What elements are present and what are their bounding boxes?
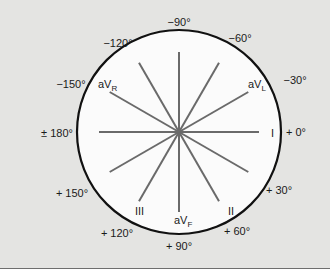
angle-label: −150° bbox=[56, 78, 85, 90]
angle-label: + 30° bbox=[266, 184, 292, 196]
lead-label: II bbox=[228, 205, 234, 217]
angle-label: + 90° bbox=[166, 240, 192, 252]
angle-label: + 0° bbox=[286, 126, 306, 138]
angle-label: −120° bbox=[103, 37, 132, 49]
angle-label: + 60° bbox=[224, 225, 250, 237]
angle-label: −60° bbox=[228, 32, 251, 44]
divider-line bbox=[0, 268, 330, 269]
angle-label: + 150° bbox=[56, 187, 88, 199]
lead-label: III bbox=[135, 205, 144, 217]
lead-label: I bbox=[271, 127, 274, 139]
hexaxial-diagram: −90°−60°−120°−30°−150°± 180°+ 0°+ 150°+ … bbox=[0, 0, 330, 268]
angle-label: −90° bbox=[167, 16, 190, 28]
angle-label: ± 180° bbox=[41, 127, 73, 139]
angle-label: −30° bbox=[283, 74, 306, 86]
angle-label: + 120° bbox=[101, 227, 133, 239]
